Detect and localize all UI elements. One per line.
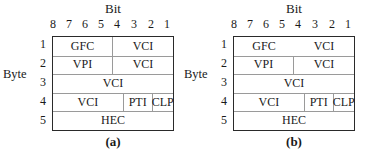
panel-a: Bit 8 7 6 5 4 3 2 1 Byte 1 2 3 4 5 GFC V…	[0, 0, 184, 154]
field-vpi: VPI	[53, 56, 113, 75]
bit-axis-title: Bit	[233, 1, 355, 17]
field-vci: VCI	[113, 37, 173, 56]
header-row-3: VCI	[234, 74, 354, 94]
field-clp: CLP	[153, 93, 173, 112]
byte-number-1: 1	[36, 36, 50, 55]
bit-number-7: 7	[62, 17, 76, 32]
field-vci: VCI	[53, 74, 173, 93]
bit-number-5: 5	[275, 17, 289, 32]
bit-number-1: 1	[341, 17, 355, 32]
bit-number-5: 5	[94, 17, 108, 32]
field-clp: CLP	[334, 93, 354, 112]
header-row-3: VCI	[53, 74, 173, 94]
bit-number-7: 7	[243, 17, 257, 32]
bit-axis-title: Bit	[52, 1, 174, 17]
bit-number-6: 6	[259, 17, 273, 32]
field-pti: PTI	[305, 93, 334, 112]
field-vci: VCI	[234, 93, 305, 112]
byte-numbers: 1 2 3 4 5	[217, 36, 231, 131]
byte-number-1: 1	[217, 36, 231, 55]
byte-number-3: 3	[217, 74, 231, 93]
bit-number-4: 4	[291, 17, 305, 32]
field-vci: VCI	[294, 37, 354, 56]
header-row-2: VPI VCI	[234, 56, 354, 76]
field-vci: VCI	[113, 56, 173, 75]
header-row-5: HEC	[53, 111, 173, 130]
bit-numbers: 8 7 6 5 4 3 2 1	[227, 17, 359, 31]
bit-number-4: 4	[110, 17, 124, 32]
header-row-2: VPI VCI	[53, 56, 173, 76]
field-vpi: VPI	[234, 56, 294, 75]
header-row-1: GFC VCI	[53, 37, 173, 57]
byte-number-5: 5	[217, 112, 231, 131]
byte-number-2: 2	[217, 55, 231, 74]
field-vci: VCI	[53, 93, 124, 112]
panel-caption: (b)	[233, 134, 355, 150]
atm-header-box: GFC VCI VPI VCI VCI VCI PTI CLP HEC	[233, 36, 355, 131]
header-row-4: VCI PTI CLP	[53, 93, 173, 113]
bit-number-3: 3	[308, 17, 322, 32]
bit-numbers: 8 7 6 5 4 3 2 1	[46, 17, 178, 31]
bit-number-8: 8	[227, 17, 241, 32]
field-gfc: GFC	[234, 37, 294, 56]
atm-header-box: GFC VCI VPI VCI VCI VCI PTI CLP HEC	[52, 36, 174, 131]
field-gfc: GFC	[53, 37, 113, 56]
panel-b: Bit 8 7 6 5 4 3 2 1 Byte 1 2 3 4 5 GFC V…	[181, 0, 365, 154]
byte-numbers: 1 2 3 4 5	[36, 36, 50, 131]
field-hec: HEC	[234, 111, 354, 130]
field-hec: HEC	[53, 111, 173, 130]
bit-number-1: 1	[160, 17, 174, 32]
header-row-4: VCI PTI CLP	[234, 93, 354, 113]
bit-number-3: 3	[127, 17, 141, 32]
byte-number-4: 4	[36, 93, 50, 112]
byte-axis-title: Byte	[184, 67, 208, 82]
bit-number-2: 2	[325, 17, 339, 32]
byte-number-3: 3	[36, 74, 50, 93]
byte-axis-title: Byte	[3, 67, 27, 82]
bit-number-2: 2	[144, 17, 158, 32]
header-row-5: HEC	[234, 111, 354, 130]
panel-caption: (a)	[52, 134, 174, 150]
byte-number-4: 4	[217, 93, 231, 112]
field-vci: VCI	[234, 74, 354, 93]
bit-number-8: 8	[46, 17, 60, 32]
header-row-1: GFC VCI	[234, 37, 354, 57]
byte-number-2: 2	[36, 55, 50, 74]
field-pti: PTI	[124, 93, 153, 112]
byte-number-5: 5	[36, 112, 50, 131]
bit-number-6: 6	[78, 17, 92, 32]
field-vci: VCI	[294, 56, 354, 75]
